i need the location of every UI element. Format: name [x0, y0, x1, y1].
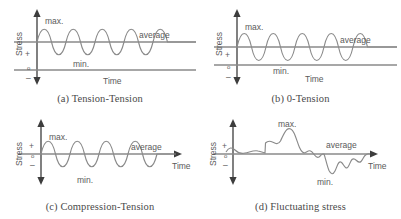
- y-axis-label-c: Stress: [14, 142, 24, 166]
- max-label-a: max.: [45, 16, 63, 26]
- x-axis-label-a: Time: [103, 76, 122, 86]
- y-axis-label-a: Stress: [14, 32, 24, 56]
- max-label-c: max.: [49, 132, 67, 142]
- stress-wave-d: [226, 129, 370, 174]
- tick-minus-d: –: [223, 160, 228, 170]
- min-label-a: min.: [73, 59, 89, 69]
- caption-d: (d) Fluctuating stress: [200, 201, 401, 212]
- tick-plus-b: +: [225, 50, 230, 60]
- tick-minus-c: –: [30, 160, 35, 170]
- y-axis-arrow-up-c: [37, 119, 44, 127]
- min-label-b: min.: [273, 66, 289, 76]
- y-axis-arrow-up-a: [33, 9, 40, 17]
- y-axis-label-d: Stress: [208, 142, 218, 166]
- y-axis-label-b: Stress: [214, 32, 224, 56]
- tick-plus-d: +: [222, 141, 227, 151]
- y-axis-arrow-up-d: [229, 119, 236, 127]
- average-label-d: average: [326, 140, 357, 150]
- caption-c: (c) Compression-Tension: [0, 201, 200, 212]
- x-axis-arrow-d: [370, 150, 378, 157]
- panel-c-compression-tension: Stress + o – max. min. average Time (c) …: [0, 110, 200, 219]
- tick-minus-b: –: [226, 72, 231, 82]
- y-axis-arrow-down-a: [33, 77, 40, 85]
- y-axis-arrow-down-c: [37, 177, 44, 185]
- max-label-b: max.: [245, 22, 263, 32]
- panel-a-tension-tension: Stress + o – max. min. average Time (a) …: [0, 0, 200, 110]
- y-axis-arrow-up-b: [233, 9, 240, 17]
- x-axis-label-c: Time: [172, 161, 191, 171]
- average-label-b: average: [340, 35, 371, 45]
- x-axis-label-d: Time: [368, 161, 387, 171]
- average-label-c: average: [131, 142, 162, 152]
- y-axis-arrow-down-b: [233, 77, 240, 85]
- max-label-d: max.: [278, 119, 296, 129]
- tick-plus-a: +: [25, 49, 30, 59]
- panel-d-fluctuating-stress: Stress + o – max. min. average Time (d) …: [200, 110, 401, 219]
- caption-a: (a) Tension-Tension: [0, 93, 200, 104]
- panel-b-zero-tension: Stress + o – max. min. average Time (b) …: [200, 0, 401, 110]
- min-label-d: min.: [317, 177, 333, 187]
- x-axis-label-b: Time: [305, 74, 324, 84]
- tick-plus-c: +: [29, 141, 34, 151]
- stress-cycle-figure-grid: Stress + o – max. min. average Time (a) …: [0, 0, 401, 219]
- tick-minus-a: –: [26, 73, 31, 83]
- y-axis-arrow-down-d: [229, 177, 236, 185]
- min-label-c: min.: [77, 175, 93, 185]
- average-label-a: average: [139, 30, 170, 40]
- caption-b: (b) 0-Tension: [200, 93, 401, 104]
